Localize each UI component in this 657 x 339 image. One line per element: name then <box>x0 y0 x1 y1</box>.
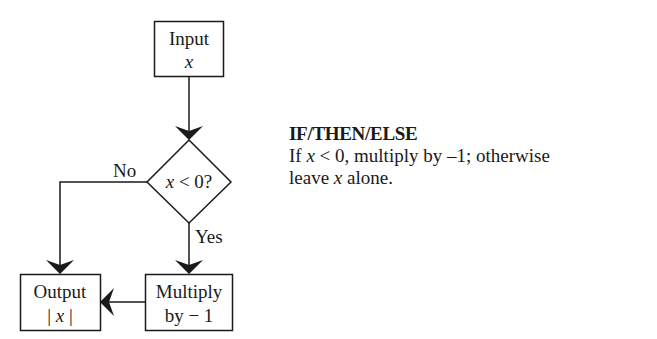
caption: IF/THEN/ELSE If x < 0, multiply by –1; o… <box>289 123 649 189</box>
yes-label: Yes <box>195 226 223 247</box>
caption-body: If x < 0, multiply by –1; otherwiseleave… <box>289 145 649 189</box>
input-node: Input x <box>155 22 224 77</box>
multiply-node: Multiply by − 1 <box>146 275 233 331</box>
multiply-operand: by − 1 <box>165 305 214 326</box>
multiply-label: Multiply <box>156 281 223 302</box>
decision-label: x < 0? <box>165 171 213 192</box>
decision-node: x < 0? <box>147 140 231 223</box>
no-label: No <box>113 160 136 181</box>
output-value: | x | <box>47 305 73 326</box>
arrow-no-to-output <box>60 182 147 273</box>
input-variable: x <box>184 51 194 72</box>
caption-title: IF/THEN/ELSE <box>289 123 649 145</box>
output-node: Output | x | <box>21 275 101 331</box>
input-label: Input <box>169 28 210 49</box>
output-label: Output <box>34 281 88 302</box>
